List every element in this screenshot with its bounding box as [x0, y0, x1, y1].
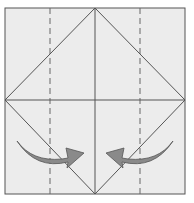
origami-diagram [0, 0, 194, 203]
